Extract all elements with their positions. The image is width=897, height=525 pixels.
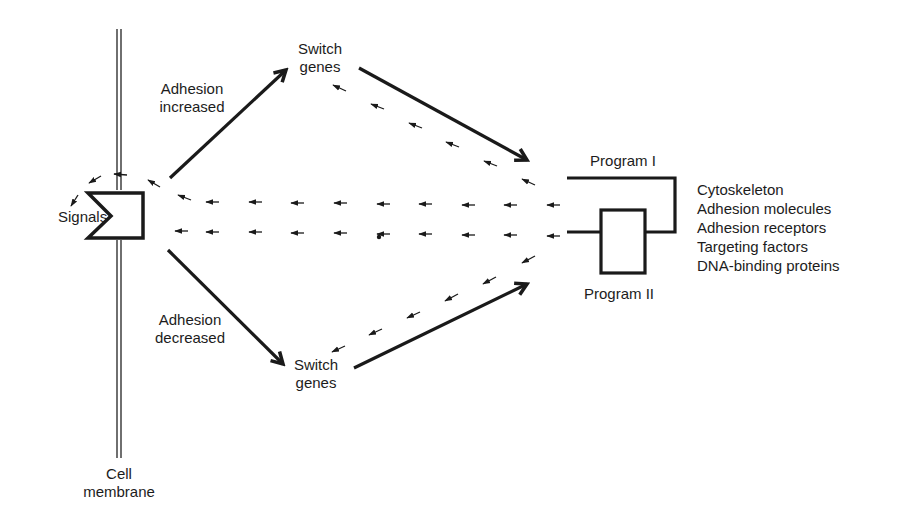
program-2-label: Program II [574, 285, 664, 303]
program-boxes [567, 178, 675, 273]
center-dot [377, 235, 381, 239]
adhesion-increased-label: Adhesion increased [152, 80, 232, 116]
label-line: Cell [74, 465, 164, 483]
upper-switch-genes-label: Switch genes [290, 40, 350, 76]
label-line: genes [290, 58, 350, 76]
label-line: Switch [290, 40, 350, 58]
label-line: membrane [74, 483, 164, 501]
output-item: Targeting factors [697, 237, 840, 256]
label-line: decreased [145, 329, 235, 347]
output-item: Adhesion receptors [697, 218, 840, 237]
arrow-switch-to-program-upper [359, 68, 527, 160]
cell-membrane [117, 29, 121, 458]
arrow-switch-to-program-lower [354, 284, 527, 368]
label-line: increased [152, 98, 232, 116]
label-line: genes [286, 374, 346, 392]
program-1-label: Program I [578, 152, 668, 170]
signals-label: Signals [58, 208, 107, 226]
output-item: Adhesion molecules [697, 199, 840, 218]
output-item: Cytoskeleton [697, 180, 840, 199]
cell-membrane-label: Cell membrane [74, 465, 164, 501]
lower-switch-genes-label: Switch genes [286, 356, 346, 392]
label-line: Switch [286, 356, 346, 374]
program-2-box [601, 210, 645, 273]
label-line: Adhesion [145, 311, 235, 329]
label-line: Adhesion [152, 80, 232, 98]
program-outputs-list: Cytoskeleton Adhesion molecules Adhesion… [697, 180, 840, 275]
output-item: DNA-binding proteins [697, 256, 840, 275]
adhesion-decreased-label: Adhesion decreased [145, 311, 235, 347]
